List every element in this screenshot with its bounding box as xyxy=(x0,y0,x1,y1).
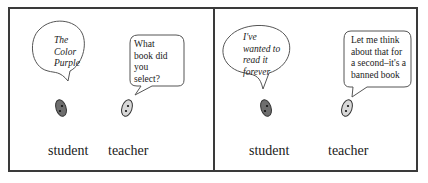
panel-1: The Color Purple What book did you selec… xyxy=(10,9,213,170)
teacher-face-icon xyxy=(120,98,135,117)
student-label: student xyxy=(48,143,88,159)
student-speech-text: I've wanted to read it forever xyxy=(243,32,280,78)
teacher-face-icon xyxy=(340,98,355,117)
teacher-speech-text: What book did you select? xyxy=(134,39,168,85)
student-face-icon xyxy=(259,98,274,117)
teacher-speech-text: Let me think about that for a second–it'… xyxy=(351,35,406,81)
panel-2: I've wanted to read it forever Let me th… xyxy=(215,9,417,170)
teacher-label: teacher xyxy=(328,143,368,159)
student-speech-text: The Color Purple xyxy=(54,35,80,70)
teacher-label: teacher xyxy=(108,143,148,159)
student-label: student xyxy=(249,143,289,159)
student-face-icon xyxy=(54,98,69,117)
